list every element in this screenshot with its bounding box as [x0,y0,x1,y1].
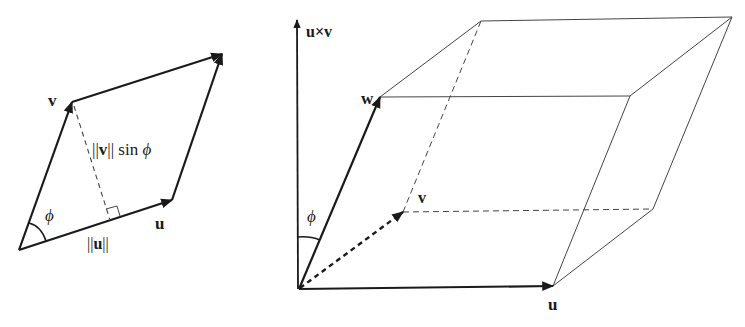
label-w: w [361,89,374,108]
label-u-cross-v: u×v [306,23,332,40]
cross-product-axis [297,20,298,289]
diagram-canvas: v u ϕ ||u|| ||v|| sin ϕ [0,0,745,327]
edge-wu-to-wuv [630,17,732,96]
right-edge-arrow [172,54,222,200]
edge-w-to-wu [380,96,630,97]
angle-arc [29,223,46,241]
label-v: v [48,91,57,110]
label-v-3d: v [418,189,426,206]
label-phi-3d: ϕ [307,207,316,226]
edge-u-to-wu [553,96,630,286]
label-u-3d: u [548,295,557,314]
vector-geometry-figure: v u ϕ ||u|| ||v|| sin ϕ [0,0,745,327]
vector-u-arrow-3d [299,286,553,289]
hidden-edge-v-to-wv [403,21,481,212]
label-phi: ϕ [45,206,54,225]
right-angle-marker [106,206,120,216]
top-edge-arrow [72,54,222,102]
angle-arc-3d [298,237,320,240]
edge-u-to-uv [553,209,653,286]
height-dashed-line [74,106,110,220]
parallelepiped-figure: u×v w v u ϕ [297,17,732,314]
label-height: ||v|| sin ϕ [92,140,151,159]
parallelogram-figure: v u ϕ ||u|| ||v|| sin ϕ [19,54,222,253]
hidden-edge-v-to-uv [403,209,653,212]
label-u: u [155,214,164,233]
label-norm-u: ||u|| [87,235,109,253]
vector-v-arrow [19,102,72,250]
edge-wv-to-wuv [481,17,732,21]
edge-uv-to-wuv [653,17,732,209]
